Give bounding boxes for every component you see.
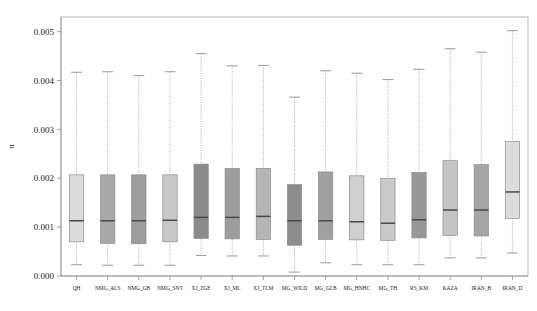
x-tick-label: KAZA	[443, 285, 458, 291]
x-tick-label: QH	[73, 285, 81, 291]
box-iqr[interactable]	[350, 176, 364, 240]
y-tick-label: 0.003	[34, 125, 55, 135]
y-tick-label: 0.005	[34, 27, 55, 37]
box-iqr[interactable]	[443, 161, 457, 236]
x-tick-label: MG_TH	[379, 285, 398, 291]
box-iqr[interactable]	[163, 175, 177, 242]
box-iqr[interactable]	[474, 165, 488, 236]
y-tick-label: 0.004	[34, 76, 55, 86]
x-tick-label: MG_WILD	[282, 285, 308, 291]
box-iqr[interactable]	[287, 185, 301, 246]
x-tick-label: NMG_SNT	[157, 285, 183, 291]
box-iqr[interactable]	[412, 172, 426, 237]
x-tick-label: XJ_ZGE	[192, 285, 212, 291]
y-tick-label: 0.000	[34, 271, 55, 281]
box-iqr[interactable]	[225, 168, 239, 238]
box-iqr[interactable]	[505, 142, 519, 219]
boxplot-svg: 0.0000.0010.0020.0030.0040.005πQHNMG_ALS…	[0, 0, 537, 311]
x-tick-label: RS_KM	[410, 285, 428, 291]
x-tick-label: MG_GLB	[315, 285, 338, 291]
box-iqr[interactable]	[318, 172, 332, 239]
box-iqr[interactable]	[101, 175, 115, 243]
box-iqr[interactable]	[381, 178, 395, 240]
y-tick-label: 0.002	[34, 173, 54, 183]
y-tick-label: 0.001	[34, 222, 54, 232]
x-tick-label: NMG_GB	[127, 285, 150, 291]
boxplot-figure: 0.0000.0010.0020.0030.0040.005πQHNMG_ALS…	[0, 0, 537, 311]
box-iqr[interactable]	[256, 168, 270, 239]
box-iqr[interactable]	[194, 164, 208, 238]
x-tick-label: XJ_ML	[224, 285, 241, 291]
box-iqr[interactable]	[69, 175, 83, 242]
y-axis-title: π	[7, 144, 16, 148]
x-tick-label: IRAN_B	[472, 285, 492, 291]
x-tick-label: MG_HNHC	[343, 285, 370, 291]
box-iqr[interactable]	[132, 175, 146, 244]
x-tick-label: NMG_ALS	[95, 285, 120, 291]
x-tick-label: XJ_TLM	[253, 285, 273, 291]
x-tick-label: IRAN_D	[503, 285, 523, 291]
